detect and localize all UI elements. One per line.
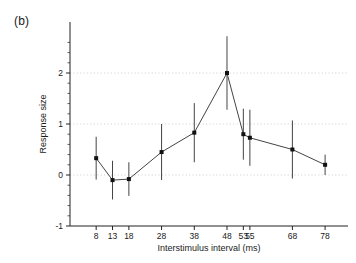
x-tick-label: 78	[320, 231, 330, 241]
x-tick-label: 8	[94, 231, 99, 241]
x-tick-label: 55	[245, 231, 255, 241]
x-tick-label: 28	[157, 231, 167, 241]
y-tick-label: -1	[55, 221, 63, 231]
x-tick-label: 48	[222, 231, 232, 241]
error-bars-group	[96, 36, 325, 199]
y-axis-ticks	[66, 73, 70, 226]
data-point-marker	[225, 71, 229, 75]
y-tick-label: 1	[58, 119, 63, 129]
data-point-marker	[323, 163, 327, 167]
data-point-marker	[241, 132, 245, 136]
y-axis-title: Response size	[38, 94, 48, 153]
y-axis: -1012	[55, 22, 70, 231]
y-tick-label: 0	[58, 170, 63, 180]
y-axis-tick-labels: -1012	[55, 68, 63, 231]
x-tick-label: 68	[288, 231, 298, 241]
x-axis-title: Interstimulus interval (ms)	[157, 243, 260, 253]
chart-plot-area: -1012 8131828384853556878 Interstimulus …	[0, 0, 356, 263]
data-series-line	[96, 73, 325, 180]
x-axis-tick-labels: 8131828384853556878	[94, 231, 330, 241]
data-point-marker	[111, 178, 115, 182]
data-point-marker	[94, 156, 98, 160]
figure-panel-b: (b) -1012 8131828384853556878 Interstimu…	[0, 0, 356, 263]
data-point-marker	[290, 148, 294, 152]
data-point-marker	[127, 177, 131, 181]
y-tick-label: 2	[58, 68, 63, 78]
x-tick-label: 18	[124, 231, 134, 241]
data-point-marker	[192, 131, 196, 135]
series-polyline	[96, 73, 325, 180]
gridlines-group	[70, 73, 348, 175]
x-tick-label: 38	[190, 231, 200, 241]
data-point-marker	[248, 136, 252, 140]
data-point-marker	[160, 150, 164, 154]
x-axis-ticks	[96, 226, 325, 230]
x-tick-label: 13	[108, 231, 118, 241]
x-axis: 8131828384853556878	[70, 226, 348, 241]
